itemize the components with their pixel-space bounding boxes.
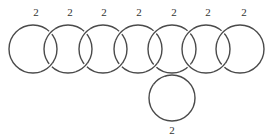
ring-3-label: 2 xyxy=(101,6,107,18)
ring-8-label: 2 xyxy=(169,124,175,136)
ring-5-label: 2 xyxy=(171,6,177,18)
linked-rings-diagram: 2 2 2 2 2 2 2 2 xyxy=(0,0,272,139)
ring-1-label: 2 xyxy=(33,6,39,18)
rings-layer xyxy=(9,25,264,121)
ring-2-label: 2 xyxy=(67,6,73,18)
ring-6-label: 2 xyxy=(205,6,211,18)
ring-7-label: 2 xyxy=(241,6,247,18)
ring-4-label: 2 xyxy=(136,6,142,18)
